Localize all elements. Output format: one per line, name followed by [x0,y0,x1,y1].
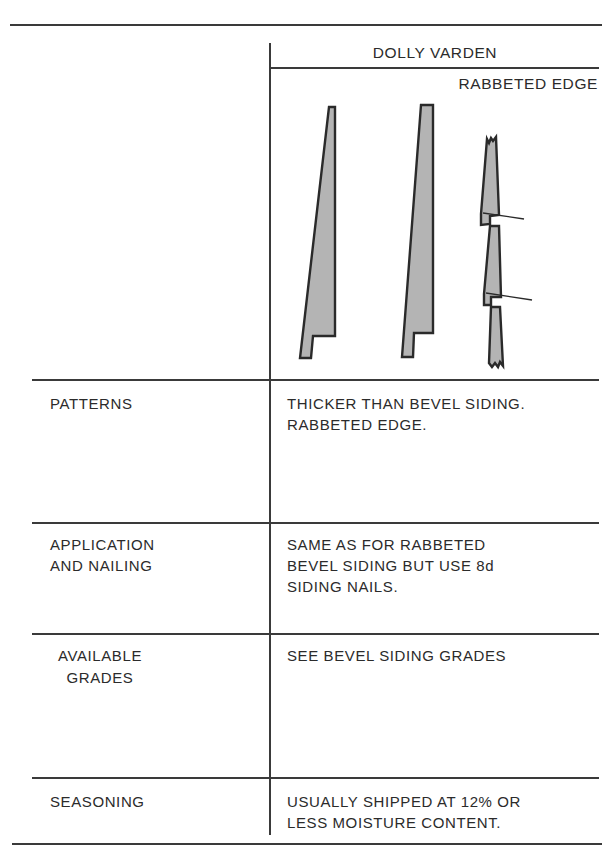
row-value-application-line2: BEVEL SIDING BUT USE 8d [287,556,494,576]
row-value-application-line3: SIDING NAILS. [287,577,398,597]
assembly-board-bottom [489,307,503,367]
row-label-grades-line1: AVAILABLE [40,646,160,666]
row-label-application-line2: AND NAILING [50,556,152,576]
row-label-application-line1: APPLICATION [50,535,155,555]
row-label-patterns: PATTERNS [50,394,133,414]
row-value-patterns-line1: THICKER THAN BEVEL SIDING. [287,394,525,414]
board-profile-2 [402,105,433,357]
row-value-seasoning-line1: USUALLY SHIPPED AT 12% OR [287,792,521,812]
row-value-grades: SEE BEVEL SIDING GRADES [287,646,506,666]
row-label-seasoning: SEASONING [50,792,145,812]
row-value-application-line1: SAME AS FOR RABBETED [287,535,486,555]
row-value-seasoning-line2: LESS MOISTURE CONTENT. [287,813,501,833]
row-value-patterns-line2: RABBETED EDGE. [287,415,427,435]
row-label-grades-line2: GRADES [40,668,160,688]
assembly-board-top [481,137,499,225]
board-profile-1 [300,107,335,358]
